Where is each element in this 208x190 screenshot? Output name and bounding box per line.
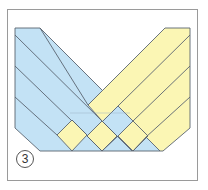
step-number: 3	[22, 152, 29, 166]
step-number-badge: 3	[16, 150, 34, 168]
